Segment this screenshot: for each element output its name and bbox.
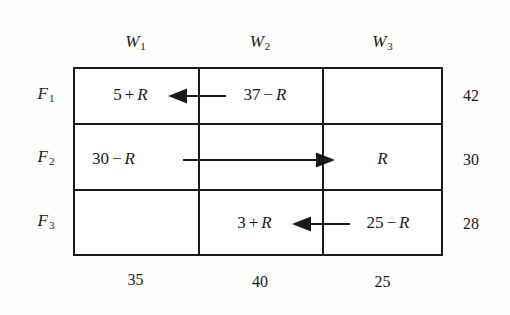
grid-horizontal-divider-2 [73,189,443,191]
row-label-f2-label: F [38,147,48,166]
column-header-w2-label: W [250,32,264,51]
column-header-w1: W1 [73,33,198,52]
column-header-w3: W3 [322,33,443,52]
cell-f1-w1-variable: R [137,85,147,104]
cell-f2-w1-number: 30 [92,149,109,168]
cell-f3-w1 [78,212,194,234]
cell-f1-w3 [326,84,439,106]
cell-f1-w2: 37−R [215,84,315,106]
demand-w2: 40 [198,272,322,292]
column-header-w3-subscript: 3 [386,40,393,52]
demand-w1: 35 [73,270,198,290]
arrow-row3-w3-to-w2 [292,216,350,232]
row-label-f3: F3 [26,212,66,231]
arrow-row2-w1-to-w3 [183,152,335,168]
row-label-f1-subscript: 1 [48,92,55,104]
cell-f1-w1-operator: + [122,85,138,104]
row-label-f3-label: F [38,211,48,230]
cell-f3-w2: 3+R [207,212,302,234]
supply-f2: 30 [463,149,479,171]
cell-f3-w3-variable: R [399,213,409,232]
column-header-w2-subscript: 2 [264,40,271,52]
cell-f1-w1: 5+R [83,84,178,106]
supply-f3: 28 [463,213,479,235]
row-label-f3-subscript: 3 [48,219,55,231]
row-label-f2: F2 [26,148,66,167]
column-header-w1-label: W [125,32,139,51]
cell-f2-w3: R [326,148,439,170]
row-label-f2-subscript: 2 [48,155,55,167]
cell-f2-w1: 30−R [78,148,192,170]
cell-f1-w2-number: 37 [244,85,261,104]
cell-f1-w1-number: 5 [113,85,122,104]
cell-f2-w3-variable: R [377,149,387,168]
cell-f1-w2-operator: − [261,85,277,104]
row-label-f1-label: F [38,84,48,103]
cell-f3-w2-number: 3 [237,213,246,232]
cell-f1-w2-variable: R [276,85,286,104]
row-label-f1: F1 [26,85,66,104]
column-header-w3-label: W [372,32,386,51]
grid-horizontal-divider-1 [73,123,443,125]
cell-f3-w2-operator: + [246,213,262,232]
column-header-w1-subscript: 1 [139,40,146,52]
cell-f3-w3-number: 25 [367,213,384,232]
cell-f3-w3: 25−R [338,212,438,234]
demand-w3: 25 [322,272,443,292]
cell-f2-w1-variable: R [125,149,135,168]
cell-f2-w1-operator: − [109,149,125,168]
supply-f1: 42 [463,85,479,107]
transportation-tableau: W1 W2 W3 F1 F2 F3 5+R 37−R 30−R R [0,0,510,315]
cell-f3-w2-variable: R [261,213,271,232]
cell-f3-w3-operator: − [384,213,400,232]
column-header-w2: W2 [198,33,322,52]
arrow-row1-w2-to-w1 [168,88,226,104]
